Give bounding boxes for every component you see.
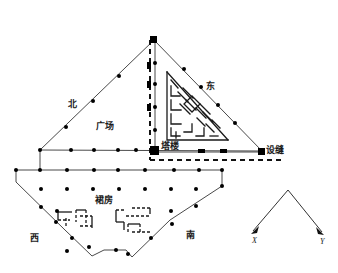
label-east: 东	[206, 82, 215, 91]
label-west: 西	[30, 234, 39, 243]
label-south: 南	[186, 231, 195, 240]
structural-node-dots	[14, 36, 265, 256]
axis-arrowheads	[251, 226, 324, 235]
label-north: 北	[68, 100, 77, 109]
plaza-grid-lines	[16, 150, 222, 182]
label-plaza: 广场	[96, 122, 114, 131]
label-seismic-joint: 设缝	[266, 146, 284, 155]
label-axis-y: Y	[320, 238, 324, 246]
label-axis-x: X	[252, 237, 257, 245]
podium-inner-walls-left	[58, 210, 92, 228]
label-tower: 塔楼	[161, 142, 179, 151]
podium-inner-walls-right	[116, 208, 152, 232]
podium-outline	[16, 170, 222, 257]
structural-plan-svg	[0, 0, 338, 273]
axis-indicator	[253, 190, 322, 232]
label-podium: 裙房	[95, 196, 113, 205]
